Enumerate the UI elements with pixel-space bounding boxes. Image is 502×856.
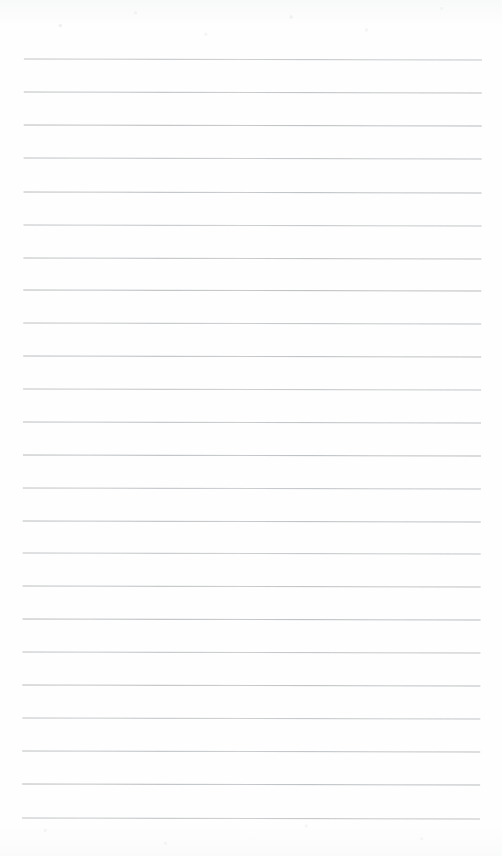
rule-line <box>23 257 481 259</box>
rule-line <box>23 585 481 587</box>
rule-line <box>24 191 482 193</box>
rule-line <box>23 487 481 489</box>
rule-line <box>23 388 481 390</box>
rule-line <box>22 817 480 819</box>
rule-line <box>23 421 481 423</box>
rule-line <box>23 289 481 291</box>
rule-line <box>23 618 481 620</box>
rule-line <box>24 58 482 60</box>
rule-line <box>23 224 481 226</box>
rule-line <box>22 717 480 719</box>
rule-line <box>24 124 482 126</box>
rule-line <box>23 552 481 554</box>
rule-line <box>22 783 480 785</box>
rule-line <box>23 520 481 522</box>
rule-line <box>22 651 480 653</box>
rule-line <box>22 684 480 686</box>
rule-line <box>22 750 480 752</box>
rule-line <box>24 157 482 159</box>
rule-line <box>23 322 481 324</box>
rule-line <box>23 355 481 357</box>
ruled-lines-group <box>0 0 502 856</box>
rule-line <box>23 454 481 456</box>
scanned-page <box>0 0 502 856</box>
rule-line <box>24 91 482 93</box>
